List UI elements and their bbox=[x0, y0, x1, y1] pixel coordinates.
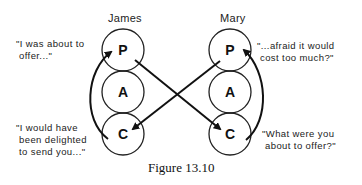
mary-parent-quote: "...afraid it would cost too much?" bbox=[257, 40, 335, 64]
figure-caption: Figure 13.10 bbox=[148, 160, 214, 176]
james-child-label: C bbox=[118, 126, 128, 142]
mary-ego-states: P A C bbox=[209, 29, 251, 155]
james-adult-label: A bbox=[118, 84, 128, 100]
james-parent-quote: "I was about to offer..." bbox=[16, 38, 85, 62]
transactional-analysis-diagram: P A C P A C James Mary "I was about to o… bbox=[0, 0, 362, 185]
james-child-quote: "I would have been delighted to send you… bbox=[16, 122, 87, 158]
mary-child-label: C bbox=[225, 126, 235, 142]
mary-child-quote: "What were you about to offer?" bbox=[262, 128, 336, 152]
james-name-label: James bbox=[108, 12, 142, 24]
james-parent-label: P bbox=[118, 42, 127, 58]
mary-adult-label: A bbox=[225, 84, 235, 100]
mary-parent-label: P bbox=[225, 42, 234, 58]
james-ego-states: P A C bbox=[102, 29, 144, 155]
mary-name-label: Mary bbox=[220, 12, 246, 24]
